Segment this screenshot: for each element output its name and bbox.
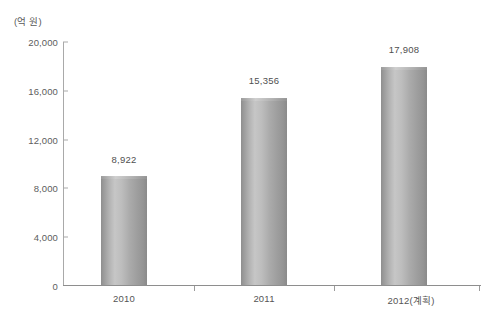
x-axis-line (63, 285, 481, 286)
bar-top-highlight-2010 (101, 176, 147, 179)
y-tick-mark-16000 (63, 90, 68, 91)
bar-2011 (241, 98, 287, 285)
y-tick-label-20000: 20,000 (28, 37, 58, 48)
x-tick-mark-3 (479, 286, 480, 291)
y-tick-label-12000: 12,000 (28, 134, 58, 145)
bar-2010 (101, 176, 147, 285)
y-tick-mark-8000 (63, 188, 68, 189)
bar-value-2010: 8,922 (112, 154, 137, 165)
y-axis-unit-label: (억 원) (14, 14, 42, 28)
bar-top-highlight-2011 (241, 98, 287, 101)
bar-chart: (억 원) 20,000 16,000 12,000 8,000 4,000 0… (0, 0, 495, 316)
x-axis-label-2011: 2011 (253, 293, 274, 304)
x-tick-mark-1 (194, 286, 195, 291)
y-tick-label-16000: 16,000 (28, 85, 58, 96)
y-tick-label-0: 0 (53, 281, 58, 292)
y-axis-line (63, 42, 64, 286)
x-axis-label-2012: 2012(계획) (387, 293, 434, 307)
y-tick-label-8000: 8,000 (34, 183, 58, 194)
y-tick-label-4000: 4,000 (34, 232, 58, 243)
x-tick-mark-2 (334, 286, 335, 291)
bar-top-highlight-2012 (381, 67, 427, 70)
y-tick-mark-12000 (63, 139, 68, 140)
bar-value-2012: 17,908 (389, 44, 419, 55)
y-tick-mark-4000 (63, 237, 68, 238)
bar-2012 (381, 67, 427, 286)
bar-value-2011: 15,356 (249, 75, 279, 86)
x-axis-label-2010: 2010 (113, 293, 135, 304)
y-tick-mark-20000 (63, 42, 68, 43)
